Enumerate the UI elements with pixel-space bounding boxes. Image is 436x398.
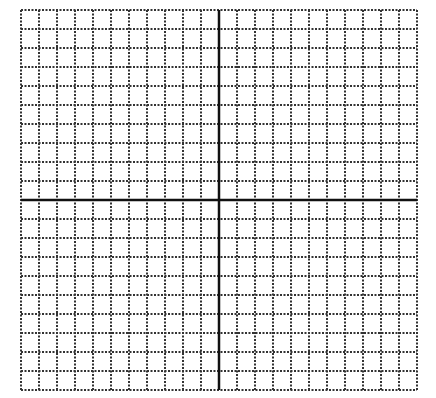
- coordinate-grid: [0, 0, 436, 398]
